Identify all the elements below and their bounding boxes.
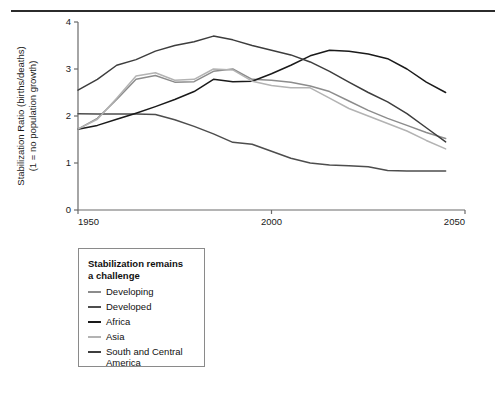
legend-item-label: Developing (106, 286, 154, 297)
y-tick-label-4: 4 (66, 16, 71, 27)
series-line-asia (78, 69, 446, 149)
legend-item-list: DevelopingDevelopedAfricaAsiaSouth and C… (88, 286, 196, 368)
legend-item-developing[interactable]: Developing (88, 286, 196, 297)
chart-axes (74, 22, 465, 214)
legend-item-label: Developed (106, 301, 151, 312)
legend-item-asia[interactable]: Asia (88, 331, 196, 342)
y-axis-label-line2: (1 = no population growth) (27, 61, 38, 172)
y-axis-label-line1: Stabilization Ratio (births/deaths) (15, 46, 26, 185)
series-line-south-and-central-america (78, 36, 446, 142)
legend-swatch-icon (88, 351, 101, 353)
legend-item-label: South and Central America (106, 346, 196, 368)
chart-series-group (78, 36, 446, 171)
chart-figure: 01234195020002050Stabilization Ratio (bi… (0, 0, 502, 394)
y-tick-label-2: 2 (66, 110, 71, 121)
x-tick-label-1950: 1950 (78, 216, 99, 227)
legend-item-label: Africa (106, 316, 130, 327)
x-tick-label-2000: 2000 (261, 216, 282, 227)
legend-swatch-icon (88, 306, 101, 308)
chart-legend: Stabilization remains a challenge Develo… (78, 248, 205, 367)
series-line-developed (78, 114, 446, 171)
plot-area: 01234195020002050Stabilization Ratio (bi… (0, 0, 502, 240)
x-tick-label-2050: 2050 (444, 216, 465, 227)
legend-title: Stabilization remains a challenge (88, 258, 196, 281)
y-tick-label-1: 1 (66, 157, 71, 168)
line-chart-svg: 01234195020002050Stabilization Ratio (bi… (0, 0, 502, 240)
legend-swatch-icon (88, 321, 101, 323)
y-tick-label-0: 0 (66, 204, 71, 215)
legend-item-label: Asia (106, 331, 124, 342)
legend-item-south-and-central-america[interactable]: South and Central America (88, 346, 196, 368)
legend-swatch-icon (88, 336, 101, 338)
legend-swatch-icon (88, 291, 101, 293)
legend-item-africa[interactable]: Africa (88, 316, 196, 327)
series-line-africa (78, 50, 446, 129)
y-tick-label-3: 3 (66, 63, 71, 74)
legend-item-developed[interactable]: Developed (88, 301, 196, 312)
